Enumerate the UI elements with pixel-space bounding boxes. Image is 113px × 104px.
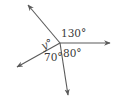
angle-diagram: 130° y° 70° 80° xyxy=(0,0,113,104)
angle-label-80: 80° xyxy=(63,47,82,59)
angle-label-y: y° xyxy=(38,36,54,52)
angle-label-130: 130° xyxy=(61,27,86,39)
angle-label-70: 70° xyxy=(44,51,63,63)
